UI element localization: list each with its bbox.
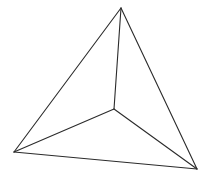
edge-center-bottom-left: [14, 109, 114, 152]
center-spokes: [14, 8, 197, 169]
outer-triangle: [14, 8, 197, 169]
edge-apex-bottom-right: [121, 8, 197, 169]
edge-center-bottom-right: [114, 109, 197, 169]
wireframe-svg: [0, 0, 210, 177]
edge-bottom-left-right: [14, 152, 197, 169]
edge-apex-bottom-left: [14, 8, 121, 152]
tetrahedron-figure: [0, 0, 210, 177]
edge-center-apex: [114, 8, 121, 109]
